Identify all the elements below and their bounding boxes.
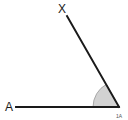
label-vertex: 1A — [116, 113, 123, 119]
label-point-a: A — [5, 100, 13, 114]
angle-sector-shading — [93, 84, 119, 107]
angle-diagram: X A 1A — [0, 0, 128, 120]
angle-diagram-canvas: X A 1A — [0, 0, 128, 120]
upper-ray-X — [67, 16, 119, 107]
label-point-x: X — [58, 2, 66, 16]
